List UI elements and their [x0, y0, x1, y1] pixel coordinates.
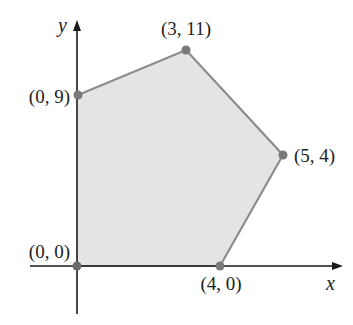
vertex-label-0-0: (0, 0) — [29, 241, 70, 263]
vertex-label-5-4: (5, 4) — [294, 145, 335, 167]
vertex-0-0 — [73, 262, 82, 271]
coordinate-diagram: y x (0, 9) (3, 11) (5, 4) (0, 0) (4, 0) — [0, 0, 353, 325]
vertex-label-3-11: (3, 11) — [161, 18, 211, 40]
y-axis-arrow-icon — [73, 20, 81, 31]
vertex-0-9 — [74, 91, 83, 100]
y-axis-label: y — [56, 14, 67, 37]
vertex-4-0 — [216, 262, 225, 271]
vertex-label-0-9: (0, 9) — [29, 86, 70, 108]
x-axis-label: x — [325, 272, 335, 294]
vertex-5-4 — [279, 151, 288, 160]
x-axis-arrow-icon — [332, 262, 343, 270]
vertex-3-11 — [182, 46, 191, 55]
vertex-label-4-0: (4, 0) — [200, 273, 241, 295]
